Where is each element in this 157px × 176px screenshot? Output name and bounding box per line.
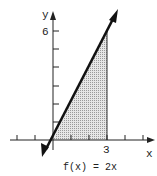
line-arrow-up-icon: [109, 9, 118, 23]
x-axis-label: x: [146, 148, 153, 160]
y-axis-arrow-icon: [50, 11, 56, 20]
x-tick-label-3: 3: [103, 144, 110, 156]
graph: y 6 3 x f(x) = 2x: [0, 0, 157, 176]
function-caption: f(x) = 2x: [63, 162, 117, 173]
x-axis-arrow-icon: [147, 137, 155, 143]
y-ticks: [53, 31, 59, 122]
y-axis-label: y: [42, 9, 49, 21]
y-tick-label-6: 6: [42, 26, 49, 38]
